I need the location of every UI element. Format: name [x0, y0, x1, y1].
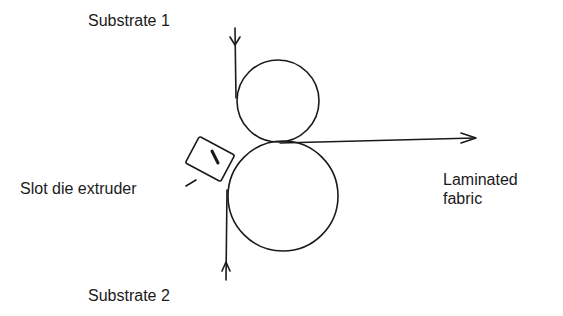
- slot-die-extruder-label: Slot die extruder: [20, 179, 137, 198]
- laminated-fabric-label-line1: Laminated: [443, 170, 518, 189]
- laminated-fabric-label: Laminated fabric: [443, 170, 518, 208]
- substrate-2-path: [226, 190, 227, 280]
- lamination-diagram: [0, 0, 563, 316]
- laminated-fabric-label-line2: fabric: [443, 189, 518, 208]
- lower-roller: [228, 141, 338, 251]
- output-path: [280, 138, 475, 143]
- substrate-1-path: [235, 28, 236, 98]
- slot-die-extruder: [185, 136, 234, 181]
- substrate-2-label: Substrate 2: [88, 286, 170, 305]
- extruder-leader-line: [186, 180, 196, 186]
- substrate-1-label: Substrate 1: [88, 11, 170, 30]
- extruder-slot: [212, 151, 218, 163]
- upper-roller: [237, 60, 319, 142]
